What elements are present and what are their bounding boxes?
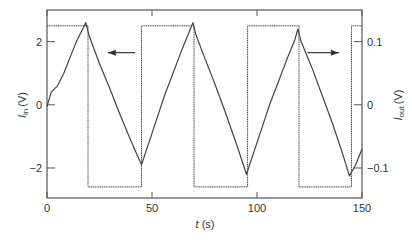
right-y-axis-ticks: 0.10−0.1 bbox=[354, 36, 389, 174]
arrow-left-icon bbox=[108, 50, 116, 56]
x-axis-label: t (s) bbox=[196, 218, 215, 230]
left-y-axis-ticks: 20−2 bbox=[29, 36, 55, 174]
plot-frame bbox=[47, 10, 362, 198]
arrow-right-icon bbox=[331, 50, 339, 56]
dual-axis-line-chart: 050100150 20−2 0.10−0.1 t (s) Iin(V) Iou… bbox=[0, 0, 412, 242]
x-tick-label: 150 bbox=[353, 202, 371, 214]
x-tick-label: 100 bbox=[248, 202, 266, 214]
y-right-tick-label: 0 bbox=[367, 99, 373, 111]
x-tick-label: 50 bbox=[146, 202, 158, 214]
left-y-axis-label: Iin(V) bbox=[16, 92, 30, 118]
right-y-axis-label: Iout(V) bbox=[392, 90, 406, 121]
y-right-tick-label: 0.1 bbox=[367, 36, 382, 48]
y-left-tick-label: 0 bbox=[36, 99, 42, 111]
triangle-wave-series bbox=[47, 23, 362, 176]
x-axis-ticks: 050100150 bbox=[44, 10, 371, 214]
series-layer bbox=[47, 23, 362, 187]
y-right-tick-label: −0.1 bbox=[367, 162, 389, 174]
plot-border bbox=[47, 10, 362, 198]
x-tick-label: 0 bbox=[44, 202, 50, 214]
y-left-tick-label: 2 bbox=[36, 36, 42, 48]
y-left-tick-label: −2 bbox=[29, 162, 42, 174]
